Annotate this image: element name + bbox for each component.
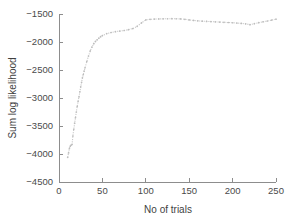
series-point bbox=[88, 55, 90, 57]
series-point bbox=[201, 20, 203, 22]
tick-marks-group bbox=[59, 14, 276, 182]
series-point bbox=[167, 18, 169, 20]
x-tick-label: 200 bbox=[225, 185, 241, 196]
series-line bbox=[68, 19, 276, 158]
axis-spines bbox=[59, 14, 276, 182]
series-point bbox=[89, 50, 91, 52]
y-tick-label: −4500 bbox=[26, 176, 53, 187]
series-point bbox=[76, 106, 78, 108]
series-point bbox=[223, 21, 225, 23]
series-point bbox=[258, 22, 260, 24]
series-point bbox=[69, 148, 71, 150]
series-point bbox=[149, 18, 151, 20]
y-tick-label: −4000 bbox=[26, 148, 53, 159]
series-point bbox=[253, 23, 255, 25]
series-point bbox=[115, 31, 117, 33]
x-tick-label: 150 bbox=[181, 185, 197, 196]
series-point bbox=[193, 20, 195, 22]
series-point bbox=[240, 23, 242, 25]
x-tick-label: 100 bbox=[138, 185, 154, 196]
series-point bbox=[123, 30, 125, 32]
series-point bbox=[162, 18, 164, 20]
series-point bbox=[98, 37, 100, 39]
series-point bbox=[77, 101, 79, 103]
x-tick-labels-group: 050100150200250 bbox=[56, 185, 284, 196]
series-point bbox=[184, 18, 186, 20]
y-axis-title: Sum log likelihood bbox=[7, 57, 18, 138]
series-point bbox=[79, 91, 81, 93]
axes-group bbox=[59, 14, 276, 182]
series-point bbox=[100, 36, 102, 38]
series-point bbox=[219, 21, 221, 23]
series-point bbox=[262, 21, 264, 23]
series-point bbox=[91, 46, 93, 48]
series-point bbox=[73, 129, 75, 131]
x-tick-label: 50 bbox=[97, 185, 108, 196]
series-point bbox=[206, 21, 208, 23]
series-point bbox=[210, 21, 212, 23]
y-tick-labels-group: −4500−4000−3500−3000−2500−2000−1500 bbox=[26, 8, 53, 187]
series-point bbox=[158, 18, 160, 20]
series-point bbox=[82, 74, 84, 76]
series-point bbox=[249, 24, 251, 26]
series-point bbox=[80, 86, 82, 88]
series-point bbox=[136, 25, 138, 27]
series-point bbox=[102, 35, 104, 37]
series-point bbox=[227, 22, 229, 24]
series-point bbox=[82, 77, 84, 79]
series-point bbox=[154, 18, 156, 20]
series-point bbox=[188, 19, 190, 21]
y-tick-label: −1500 bbox=[26, 8, 53, 19]
series-point bbox=[275, 18, 277, 20]
series-point bbox=[214, 21, 216, 23]
series-point bbox=[81, 81, 83, 83]
series-point bbox=[86, 61, 88, 63]
series-point bbox=[84, 67, 86, 69]
series-point bbox=[245, 23, 247, 25]
series-point bbox=[71, 144, 73, 146]
x-axis-title: No of trials bbox=[144, 204, 192, 215]
series-point bbox=[106, 33, 108, 35]
series-point bbox=[67, 157, 69, 159]
series-point bbox=[76, 111, 78, 113]
y-tick-label: −2500 bbox=[26, 64, 53, 75]
series-point bbox=[74, 122, 76, 124]
series-point bbox=[175, 18, 177, 20]
series-point bbox=[119, 30, 121, 32]
x-tick-label: 250 bbox=[268, 185, 284, 196]
series-point bbox=[171, 18, 173, 20]
series-point bbox=[78, 96, 80, 98]
chart-plot: 050100150200250 −4500−4000−3500−3000−250… bbox=[0, 0, 291, 220]
series-point bbox=[132, 28, 134, 30]
series-point bbox=[236, 22, 238, 24]
series-point bbox=[72, 135, 74, 137]
series-point bbox=[141, 22, 143, 24]
y-tick-label: −3500 bbox=[26, 120, 53, 131]
y-tick-label: −3000 bbox=[26, 92, 53, 103]
series-point bbox=[93, 43, 95, 45]
series-point bbox=[271, 19, 273, 21]
series-point bbox=[197, 20, 199, 22]
series-point bbox=[96, 39, 98, 41]
series-point bbox=[95, 41, 97, 43]
series-point bbox=[232, 22, 234, 24]
series-point bbox=[128, 29, 130, 31]
series-point bbox=[145, 19, 147, 21]
series-point bbox=[266, 20, 268, 22]
series-point bbox=[75, 117, 77, 119]
figure-canvas: 050100150200250 −4500−4000−3500−3000−250… bbox=[0, 0, 291, 220]
data-series-group bbox=[67, 18, 277, 158]
y-tick-label: −2000 bbox=[26, 36, 53, 47]
series-point bbox=[180, 18, 182, 20]
series-point bbox=[68, 152, 70, 154]
series-point bbox=[110, 32, 112, 34]
series-point bbox=[83, 70, 85, 72]
x-tick-label: 0 bbox=[56, 185, 61, 196]
